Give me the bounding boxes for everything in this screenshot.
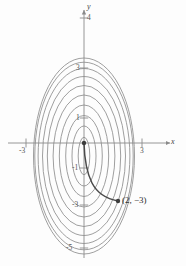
y-tick-label-4: 4 xyxy=(87,14,91,22)
endpoint-dot xyxy=(116,199,120,203)
axes-group xyxy=(8,10,170,258)
plot-canvas xyxy=(0,0,186,266)
y-tick-label-1: 1 xyxy=(76,114,80,122)
y-tick-label-neg1: -1 xyxy=(72,164,78,172)
x-tick-label-pos3: 3 xyxy=(140,147,144,155)
origin-dot xyxy=(82,141,86,145)
x-axis-label: x xyxy=(171,138,175,146)
y-tick-label-neg3: -3 xyxy=(72,201,78,209)
x-tick-label-neg3: -3 xyxy=(19,147,25,155)
y-axis-label: y xyxy=(87,3,91,11)
phase-portrait-figure: x y -3 3 4 3 1 -1 -3 -5 (2, −3) xyxy=(0,0,186,266)
y-tick-label-neg5: -5 xyxy=(66,244,72,252)
point-annotation-label: (2, −3) xyxy=(122,196,147,205)
y-tick-label-3: 3 xyxy=(76,64,80,72)
